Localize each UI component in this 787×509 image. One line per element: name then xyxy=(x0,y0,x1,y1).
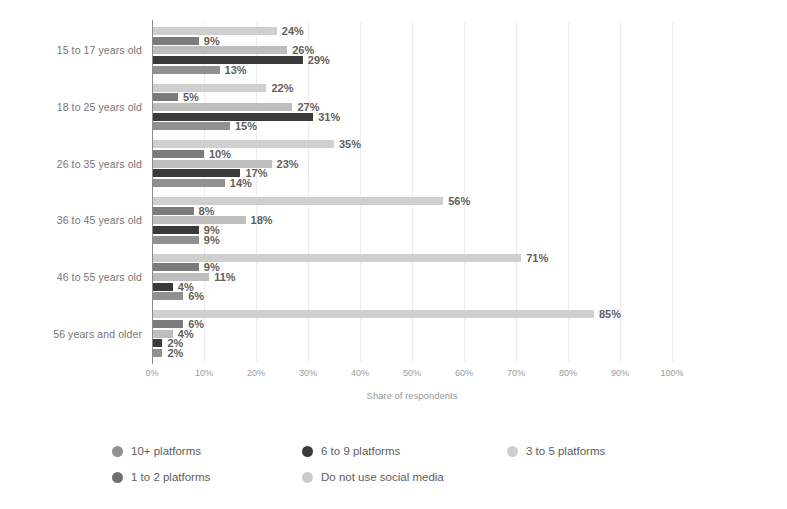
bar-value-label: 22% xyxy=(271,82,293,94)
bar-value-label: 71% xyxy=(526,252,548,264)
plot-area: 15 to 17 years old24%9%26%29%13%18 to 25… xyxy=(152,22,672,362)
bar-value-label: 13% xyxy=(225,64,247,76)
bar-value-label: 31% xyxy=(318,111,340,123)
bar-row: 22% xyxy=(152,84,266,92)
bar[interactable] xyxy=(152,292,183,300)
legend-item[interactable]: 1 to 2 platforms xyxy=(112,464,210,490)
bar[interactable] xyxy=(152,84,266,92)
bar-row: 85% xyxy=(152,310,594,318)
bar-row: 27% xyxy=(152,103,292,111)
bar-row: 4% xyxy=(152,283,173,291)
bar[interactable] xyxy=(152,37,199,45)
bar-row: 9% xyxy=(152,236,199,244)
bar-value-label: 85% xyxy=(599,308,621,320)
bar[interactable] xyxy=(152,236,199,244)
legend-label: 10+ platforms xyxy=(131,445,201,457)
bar-value-label: 18% xyxy=(251,214,273,226)
x-tick-label: 30% xyxy=(299,368,317,378)
bar-value-label: 2% xyxy=(167,347,183,359)
x-axis-ticks: 0%10%20%30%40%50%60%70%80%90%100% xyxy=(152,368,672,384)
category-label: 26 to 35 years old xyxy=(2,158,142,170)
bar-value-label: 35% xyxy=(339,138,361,150)
bar[interactable] xyxy=(152,150,204,158)
legend-item[interactable]: 10+ platforms xyxy=(112,438,201,464)
plot-wrapper: 15 to 17 years old24%9%26%29%13%18 to 25… xyxy=(0,0,787,400)
legend-swatch-icon xyxy=(112,472,123,483)
x-tick-label: 90% xyxy=(611,368,629,378)
bar-value-label: 15% xyxy=(235,120,257,132)
category-label: 36 to 45 years old xyxy=(2,214,142,226)
bar[interactable] xyxy=(152,179,225,187)
bar[interactable] xyxy=(152,46,287,54)
bar-value-label: 24% xyxy=(282,25,304,37)
bar[interactable] xyxy=(152,169,240,177)
bar-row: 2% xyxy=(152,349,162,357)
bar[interactable] xyxy=(152,103,292,111)
x-tick-label: 50% xyxy=(403,368,421,378)
x-tick-label: 20% xyxy=(247,368,265,378)
bar[interactable] xyxy=(152,93,178,101)
bar-group: 15 to 17 years old24%9%26%29%13% xyxy=(152,22,672,79)
x-tick-label: 100% xyxy=(660,368,683,378)
bar[interactable] xyxy=(152,263,199,271)
bar-value-label: 14% xyxy=(230,177,252,189)
x-tick-label: 80% xyxy=(559,368,577,378)
x-tick-label: 40% xyxy=(351,368,369,378)
bar-row: 9% xyxy=(152,263,199,271)
y-axis-line xyxy=(152,20,153,364)
bar[interactable] xyxy=(152,197,443,205)
legend-item[interactable]: 6 to 9 platforms xyxy=(302,438,400,464)
legend-swatch-icon xyxy=(302,446,313,457)
legend-row-bottom: 1 to 2 platformsDo not use social media xyxy=(112,464,712,490)
legend-item[interactable]: 3 to 5 platforms xyxy=(507,438,605,464)
legend-row-top: 10+ platforms6 to 9 platforms3 to 5 plat… xyxy=(112,438,712,464)
bar-group: 56 years and older85%6%4%2%2% xyxy=(152,305,672,362)
bar-value-label: 11% xyxy=(214,271,235,283)
legend-label: Do not use social media xyxy=(321,471,444,483)
bar-row: 17% xyxy=(152,169,240,177)
category-label: 56 years and older xyxy=(2,328,142,340)
bar[interactable] xyxy=(152,207,194,215)
bar-group: 18 to 25 years old22%5%27%31%15% xyxy=(152,79,672,136)
bar-value-label: 29% xyxy=(308,54,330,66)
bar[interactable] xyxy=(152,216,246,224)
bar[interactable] xyxy=(152,339,162,347)
bar-row: 5% xyxy=(152,93,178,101)
bar[interactable] xyxy=(152,66,220,74)
bar[interactable] xyxy=(152,113,313,121)
bar-row: 15% xyxy=(152,122,230,130)
legend-swatch-icon xyxy=(112,446,123,457)
bar[interactable] xyxy=(152,122,230,130)
bar-row: 6% xyxy=(152,292,183,300)
bar-row: 10% xyxy=(152,150,204,158)
bar-group: 36 to 45 years old56%8%18%9%9% xyxy=(152,192,672,249)
x-tick-label: 60% xyxy=(455,368,473,378)
bar-row: 9% xyxy=(152,37,199,45)
bar[interactable] xyxy=(152,226,199,234)
bar-value-label: 9% xyxy=(204,234,220,246)
bar-value-label: 27% xyxy=(297,101,319,113)
legend-swatch-icon xyxy=(507,446,518,457)
chart-legend: 10+ platforms6 to 9 platforms3 to 5 plat… xyxy=(112,438,712,490)
bar[interactable] xyxy=(152,283,173,291)
bar[interactable] xyxy=(152,140,334,148)
bar-row: 2% xyxy=(152,339,162,347)
legend-swatch-icon xyxy=(302,472,313,483)
bar-row: 18% xyxy=(152,216,246,224)
category-label: 18 to 25 years old xyxy=(2,101,142,113)
legend-label: 3 to 5 platforms xyxy=(526,445,605,457)
legend-label: 1 to 2 platforms xyxy=(131,471,210,483)
legend-label: 6 to 9 platforms xyxy=(321,445,400,457)
bar-row: 31% xyxy=(152,113,313,121)
bar-value-label: 56% xyxy=(448,195,470,207)
bar[interactable] xyxy=(152,349,162,357)
grouped-bar-chart: 15 to 17 years old24%9%26%29%13%18 to 25… xyxy=(0,0,787,509)
bar-value-label: 10% xyxy=(209,148,231,160)
bar-row: 56% xyxy=(152,197,443,205)
x-axis-title: Share of respondents xyxy=(152,390,672,401)
bar-row: 13% xyxy=(152,66,220,74)
bar-value-label: 8% xyxy=(199,205,215,217)
bar[interactable] xyxy=(152,310,594,318)
legend-item[interactable]: Do not use social media xyxy=(302,464,444,490)
bar-groups: 15 to 17 years old24%9%26%29%13%18 to 25… xyxy=(152,22,672,362)
